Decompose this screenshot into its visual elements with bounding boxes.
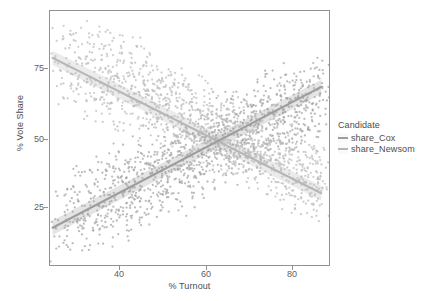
legend-title: Candidate (338, 120, 426, 130)
cox-regression-line (53, 87, 322, 228)
legend-item-share-cox[interactable]: share_Cox (338, 132, 426, 143)
legend-key-share-cox (338, 133, 348, 143)
x-tick-label-40: 40 (99, 269, 139, 279)
legend: Candidate share_Cox share_Newsom (338, 120, 426, 154)
y-axis-title: % Vote Share (15, 63, 25, 183)
y-tick-label-75: 75 (8, 63, 44, 73)
legend-label-share-cox: share_Cox (351, 133, 395, 143)
y-tick-label-50: 50 (8, 134, 44, 144)
y-tick-mark-50 (44, 139, 48, 140)
x-axis-title: % Turnout (49, 281, 330, 291)
legend-label-share-newsom: share_Newsom (351, 144, 415, 154)
x-tick-label-60: 60 (186, 269, 226, 279)
newsom-scatter-points (50, 20, 329, 222)
y-tick-label-25: 25 (8, 202, 44, 212)
y-tick-mark-25 (44, 207, 48, 208)
legend-item-share-newsom[interactable]: share_Newsom (338, 143, 426, 154)
scatter-plot-figure: 75 50 25 % Vote Share 40 60 80 % Turnout… (0, 0, 429, 301)
x-tick-label-80: 80 (272, 269, 312, 279)
plot-panel (49, 10, 330, 266)
legend-key-share-newsom (338, 144, 348, 154)
y-tick-mark-75 (44, 68, 48, 69)
plot-area (50, 11, 329, 265)
